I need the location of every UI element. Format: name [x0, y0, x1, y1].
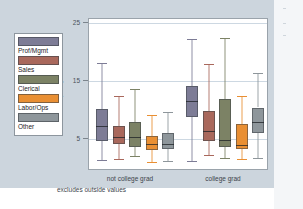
- whisker-cap-lower: [237, 159, 247, 160]
- legend-item-labor-ops[interactable]: Labor/Ops: [18, 94, 59, 112]
- whisker-upper: [151, 115, 152, 136]
- median-line: [252, 122, 264, 123]
- legend-item-sales[interactable]: Sales: [18, 56, 59, 74]
- median-line: [236, 145, 248, 146]
- whisker-lower: [225, 147, 226, 157]
- median-line: [129, 137, 141, 138]
- whisker-lower: [102, 141, 103, 161]
- whisker-lower: [135, 147, 136, 157]
- box-iqr: [203, 111, 215, 141]
- median-line: [96, 126, 108, 127]
- whisker-cap-upper: [187, 39, 197, 40]
- whisker-cap-upper: [253, 73, 263, 74]
- legend-swatch-icon: [18, 37, 59, 46]
- median-line: [162, 144, 174, 145]
- x-group-label-not-college-grad: not college grad: [107, 175, 153, 182]
- whisker-upper: [118, 96, 119, 126]
- whisker-lower: [241, 149, 242, 159]
- whisker-upper: [241, 96, 242, 125]
- median-line: [113, 137, 125, 138]
- box-iqr: [129, 122, 141, 147]
- box-iqr: [96, 109, 108, 141]
- box-iqr: [162, 133, 174, 149]
- whisker-cap-upper: [220, 38, 230, 39]
- legend-item-label: Sales: [18, 65, 59, 74]
- boxplot-labor-ops-not-college-grad: [146, 18, 158, 170]
- whisker-upper: [102, 63, 103, 109]
- box-iqr: [252, 108, 264, 133]
- whisker-cap-upper: [147, 115, 157, 116]
- legend-swatch-icon: [18, 75, 59, 84]
- whisker-cap-lower: [147, 162, 157, 163]
- scan-speck: [283, 8, 286, 9]
- whisker-lower: [118, 144, 119, 159]
- boxplot-other-college-grad: [252, 18, 264, 170]
- page-bottom-margin: [0, 188, 303, 209]
- legend-item-label: Clerical: [18, 84, 59, 93]
- boxplot-labor-ops-college-grad: [236, 18, 248, 170]
- whisker-cap-lower: [204, 155, 214, 156]
- x-group-label-college-grad: college grad: [205, 175, 240, 182]
- whisker-cap-lower: [97, 160, 107, 161]
- box-iqr: [113, 126, 125, 145]
- whisker-cap-lower: [114, 159, 124, 160]
- median-line: [203, 131, 215, 132]
- whisker-lower: [151, 150, 152, 162]
- chart-footnote: excludes outside values: [57, 186, 126, 193]
- whisker-upper: [225, 38, 226, 99]
- legend-item-clerical[interactable]: Clerical: [18, 75, 59, 93]
- whisker-cap-lower: [220, 158, 230, 159]
- whisker-upper: [168, 112, 169, 133]
- scan-speck: [283, 23, 286, 24]
- legend-item-label: Labor/Ops: [18, 103, 59, 112]
- y-tick-label-15: 15: [68, 77, 80, 84]
- boxplot-clerical-college-grad: [219, 18, 231, 170]
- legend-item-label: Other: [18, 122, 59, 131]
- whisker-lower: [258, 133, 259, 158]
- boxplot-prof-mgmt-not-college-grad: [96, 18, 108, 170]
- legend-swatch-icon: [18, 113, 59, 122]
- whisker-upper: [192, 39, 193, 86]
- legend-item-prof-mgmt[interactable]: Prof/Mgmt: [18, 37, 59, 55]
- box-iqr: [146, 136, 158, 150]
- boxplot-sales-college-grad: [203, 18, 215, 170]
- whisker-lower: [168, 149, 169, 161]
- figure-page: 25 15 5 hourly wage not college grad col…: [0, 0, 303, 209]
- y-tick-label-25: 25: [68, 19, 80, 26]
- median-line: [146, 144, 158, 145]
- whisker-upper: [258, 73, 259, 107]
- legend: Prof/MgmtSalesClericalLabor/OpsOther: [14, 33, 63, 136]
- whisker-cap-lower: [163, 161, 173, 162]
- median-line: [219, 140, 231, 141]
- boxplot-other-not-college-grad: [162, 18, 174, 170]
- whisker-upper: [208, 64, 209, 111]
- whisker-lower: [208, 141, 209, 155]
- boxplot-sales-not-college-grad: [113, 18, 125, 170]
- y-tick-label-5: 5: [68, 135, 80, 142]
- scan-speck: [283, 35, 286, 36]
- whisker-cap-upper: [163, 112, 173, 113]
- legend-item-other[interactable]: Other: [18, 113, 59, 131]
- whisker-cap-upper: [97, 63, 107, 64]
- page-right-margin: [274, 0, 303, 209]
- whisker-lower: [192, 117, 193, 161]
- legend-item-label: Prof/Mgmt: [18, 46, 59, 55]
- boxplot-series-layer: [88, 18, 268, 170]
- whisker-cap-lower: [187, 161, 197, 162]
- whisker-cap-upper: [204, 64, 214, 65]
- whisker-upper: [135, 89, 136, 122]
- boxplot-clerical-not-college-grad: [129, 18, 141, 170]
- whisker-cap-upper: [237, 96, 247, 97]
- legend-swatch-icon: [18, 56, 59, 65]
- whisker-cap-lower: [130, 156, 140, 157]
- whisker-cap-upper: [114, 96, 124, 97]
- legend-swatch-icon: [18, 94, 59, 103]
- whisker-cap-upper: [130, 89, 140, 90]
- median-line: [186, 101, 198, 102]
- whisker-cap-lower: [253, 158, 263, 159]
- boxplot-prof-mgmt-college-grad: [186, 18, 198, 170]
